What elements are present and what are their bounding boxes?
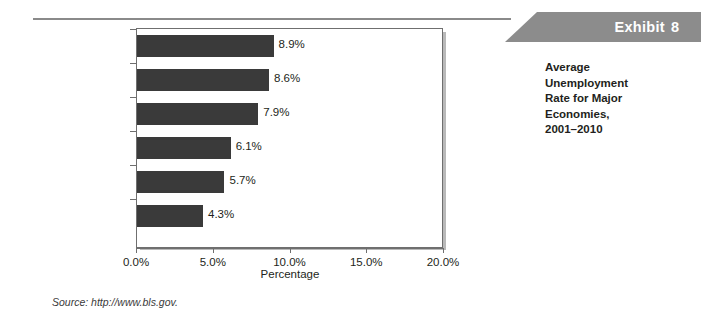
exhibit-number: 8 — [671, 19, 679, 35]
bar-value-label: 6.1% — [236, 140, 262, 152]
x-axis-tick — [290, 248, 291, 253]
bar-value-label: 7.9% — [263, 106, 289, 118]
x-axis-tick-label: 5.0% — [200, 256, 226, 268]
x-axis-tick — [213, 248, 214, 253]
y-axis-tick — [130, 29, 136, 30]
bar — [137, 103, 258, 125]
bar-rows: Germany8.9%France8.6%Italy7.9%United Sta… — [0, 29, 470, 233]
bar-value-label: 4.3% — [208, 208, 234, 220]
bar — [137, 171, 224, 193]
bar — [137, 137, 231, 159]
y-axis-tick — [130, 97, 136, 98]
bar — [137, 205, 203, 227]
exhibit-label: Exhibit — [614, 19, 664, 35]
bar-row: Italy7.9% — [0, 97, 470, 131]
y-axis-tick — [130, 165, 136, 166]
x-axis-tick — [136, 248, 137, 253]
exhibit-caption: Average Unemployment Rate for Major Econ… — [545, 60, 705, 138]
bar-row: Japan4.3% — [0, 199, 470, 233]
bar — [137, 69, 269, 91]
y-axis-tick — [130, 131, 136, 132]
source-note: Source: http://www.bls.gov. — [52, 296, 178, 308]
x-axis-tick — [443, 248, 444, 253]
exhibit-banner: Exhibit 8 — [505, 12, 701, 42]
bar-value-label: 5.7% — [229, 174, 255, 186]
bar-value-label: 8.9% — [279, 38, 305, 50]
x-axis-title: Percentage — [136, 268, 444, 280]
y-axis-tick — [130, 199, 136, 200]
bar-row: United States6.1% — [0, 131, 470, 165]
bar-row: United Kingdom5.7% — [0, 165, 470, 199]
bar-value-label: 8.6% — [274, 72, 300, 84]
x-axis-tick-label: 15.0% — [350, 256, 383, 268]
x-axis-tick — [366, 248, 367, 253]
x-axis-tick-label: 10.0% — [273, 256, 306, 268]
bar-row: France8.6% — [0, 63, 470, 97]
x-axis-tick-label: 20.0% — [427, 256, 460, 268]
x-axis-tick-label: 0.0% — [123, 256, 149, 268]
y-axis-tick — [130, 63, 136, 64]
bar-row: Germany8.9% — [0, 29, 470, 63]
bar-chart: Germany8.9%France8.6%Italy7.9%United Sta… — [0, 0, 470, 300]
bar — [137, 35, 274, 57]
